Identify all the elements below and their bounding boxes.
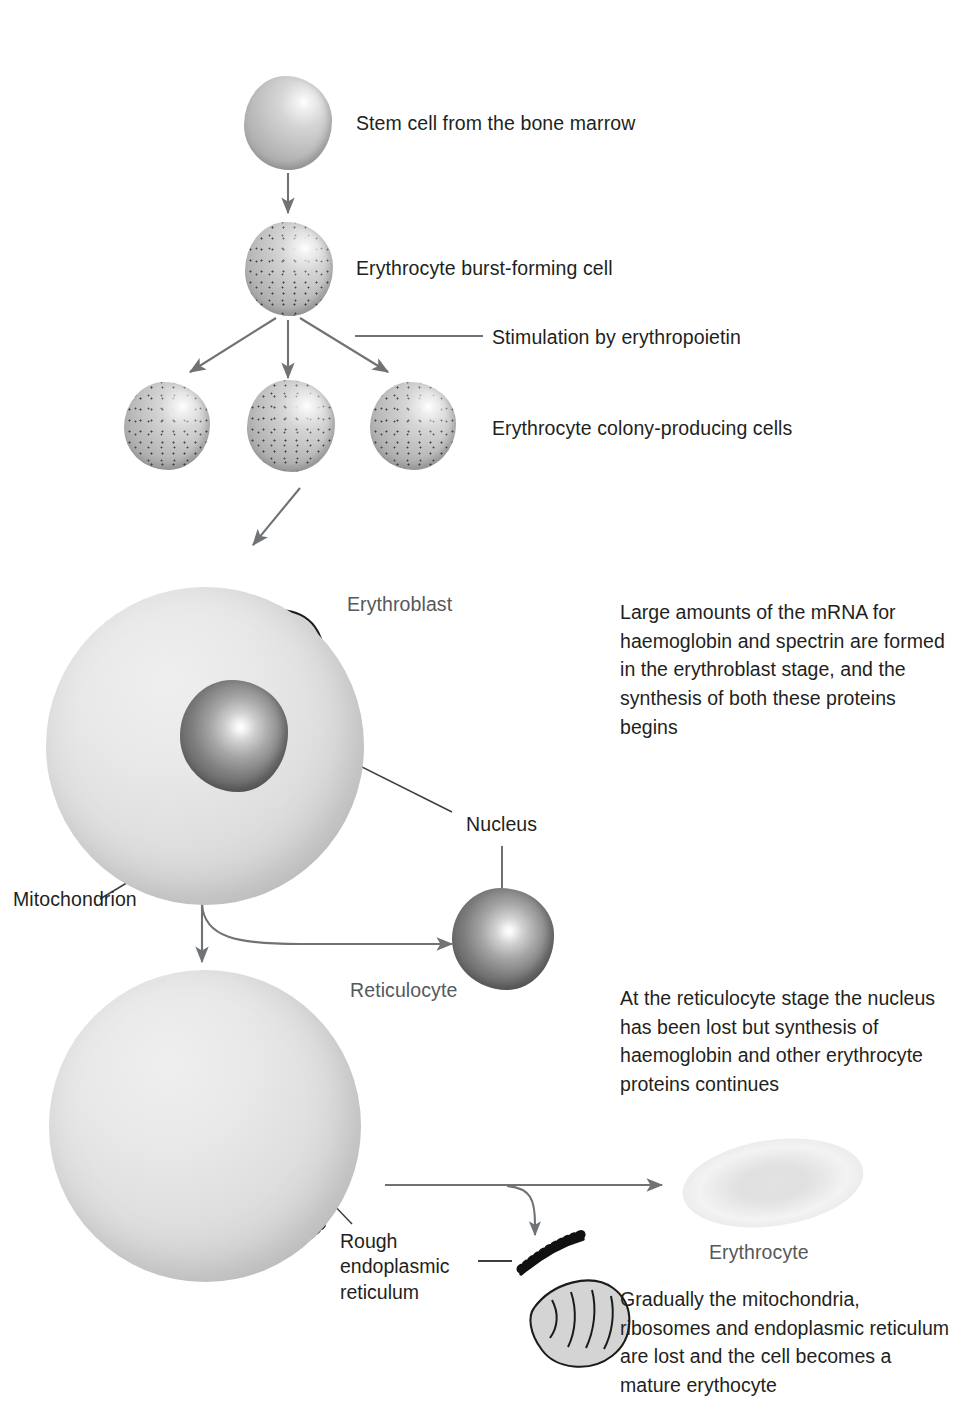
label-erythrocyte: Erythrocyte <box>709 1240 809 1265</box>
label-mitochondrion: Mitochondrion <box>13 887 137 912</box>
cell-colony-producing-2 <box>247 380 335 472</box>
label-colony-producing: Erythrocyte colony-producing cells <box>492 416 792 441</box>
cell-colony-producing-3 <box>370 382 456 470</box>
note-erythroblast: Large amounts of the mRNA for haemoglobi… <box>620 598 950 741</box>
note-reticulocyte: At the reticulocyte stage the nucleus ha… <box>620 984 950 1099</box>
cell-reticulocyte <box>49 970 361 1282</box>
arrow-burst-left <box>190 318 276 372</box>
label-burst-forming: Erythrocyte burst-forming cell <box>356 256 613 281</box>
cell-colony-producing-1 <box>124 382 210 470</box>
arrow-organelle-loss <box>507 1186 535 1235</box>
note-erythrocyte: Gradually the mitochondria, ribosomes an… <box>620 1285 950 1400</box>
label-stem-cell: Stem cell from the bone marrow <box>356 111 635 136</box>
label-rough-endoplasmic-reticulum: Rough endoplasmic reticulum <box>340 1229 449 1305</box>
detached-organelles <box>521 1234 629 1367</box>
label-reticulocyte: Reticulocyte <box>350 978 457 1003</box>
diagram-canvas: Stem cell from the bone marrow Erythrocy… <box>0 0 973 1419</box>
cell-erythrocyte <box>677 1128 869 1238</box>
label-stimulation-erythropoietin: Stimulation by erythropoietin <box>492 325 741 350</box>
arrow-colony-to-erythroblast <box>253 488 300 545</box>
arrow-nucleus-extrusion <box>202 904 452 944</box>
organelle-nucleus-in-erythroblast <box>180 680 288 792</box>
arrow-burst-right <box>300 318 388 372</box>
cell-burst-forming <box>245 222 333 316</box>
cell-extruded-nucleus <box>452 888 554 990</box>
cell-stem-cell <box>244 76 332 170</box>
label-nucleus: Nucleus <box>466 812 537 837</box>
label-erythroblast: Erythroblast <box>347 592 452 617</box>
